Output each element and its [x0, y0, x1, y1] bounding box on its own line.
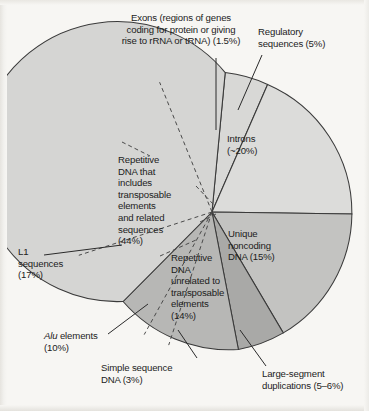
label-large-segment-duplications: Large-segment duplications (5–6%): [262, 368, 366, 391]
label-exons: Exons (regions of genes coding for prote…: [83, 12, 279, 47]
alu-italic-term: Alu: [44, 330, 57, 341]
label-unique-noncoding-dna: Unique noncoding DNA (15%): [228, 228, 314, 263]
label-simple-sequence-dna: Simple sequence DNA (3%): [101, 362, 211, 385]
label-l1-sequences: L1 sequences (17%): [18, 246, 84, 281]
scan-edge-top: [0, 0, 369, 5]
scan-edge-bottom: [0, 405, 369, 411]
scan-edge-left: [0, 0, 7, 411]
label-regulatory-sequences: Regulatory sequences (5%): [258, 26, 362, 49]
pie-chart-figure: Exons (regions of genes coding for prote…: [0, 0, 369, 411]
label-repetitive-dna-transposable: Repetitive DNA that includes transposabl…: [118, 154, 190, 247]
label-alu-elements: Alu elements (10%): [44, 330, 144, 353]
label-repetitive-dna-unrelated: Repetitive DNA unrelated to transposable…: [171, 252, 233, 322]
scan-edge-right: [364, 0, 369, 411]
label-introns: Introns (~20%): [227, 133, 297, 156]
